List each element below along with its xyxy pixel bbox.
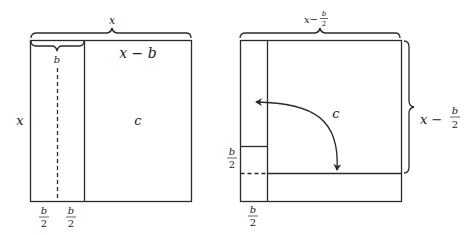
svg-text:x −: x − xyxy=(420,112,442,127)
right-square xyxy=(241,41,402,202)
svg-text:2: 2 xyxy=(68,218,74,229)
right-top-brace-label: x− b 2 xyxy=(304,10,328,28)
left-top-right-label: x − b xyxy=(119,45,157,61)
svg-text:b: b xyxy=(452,105,458,116)
left-side-label: x xyxy=(16,113,24,128)
svg-text:b: b xyxy=(41,205,47,216)
svg-text:b: b xyxy=(322,10,327,18)
diagram-canvas: x b x − b x c b 2 b 2 x− b xyxy=(0,0,464,235)
svg-text:b: b xyxy=(229,146,235,157)
right-area-label: c xyxy=(332,106,340,121)
left-inner-brace-label: b xyxy=(54,54,60,65)
svg-text:2: 2 xyxy=(41,218,47,229)
svg-text:2: 2 xyxy=(322,20,326,28)
left-bottom-fraction-2: b 2 xyxy=(66,205,76,229)
svg-text:2: 2 xyxy=(452,119,458,130)
right-bottom-fraction: b 2 xyxy=(248,204,258,228)
right-top-brace xyxy=(240,28,400,38)
svg-text:x−: x− xyxy=(304,14,318,25)
right-figure: x− b 2 x − b 2 c xyxy=(227,10,460,228)
left-top-brace xyxy=(31,28,191,38)
svg-text:2: 2 xyxy=(229,159,235,170)
svg-text:b: b xyxy=(250,204,256,215)
right-side-brace xyxy=(404,41,414,173)
left-area-label: c xyxy=(134,113,142,128)
left-inner-brace xyxy=(31,41,84,51)
svg-text:2: 2 xyxy=(250,217,256,228)
right-left-fraction: b 2 xyxy=(227,146,237,170)
left-bottom-fraction-1: b 2 xyxy=(39,205,49,229)
right-side-brace-label: x − b 2 xyxy=(420,105,460,130)
svg-text:b: b xyxy=(68,205,74,216)
left-figure: x b x − b x c b 2 b 2 xyxy=(16,14,191,229)
left-top-brace-label: x xyxy=(109,14,116,27)
rotation-arrow xyxy=(256,102,337,170)
